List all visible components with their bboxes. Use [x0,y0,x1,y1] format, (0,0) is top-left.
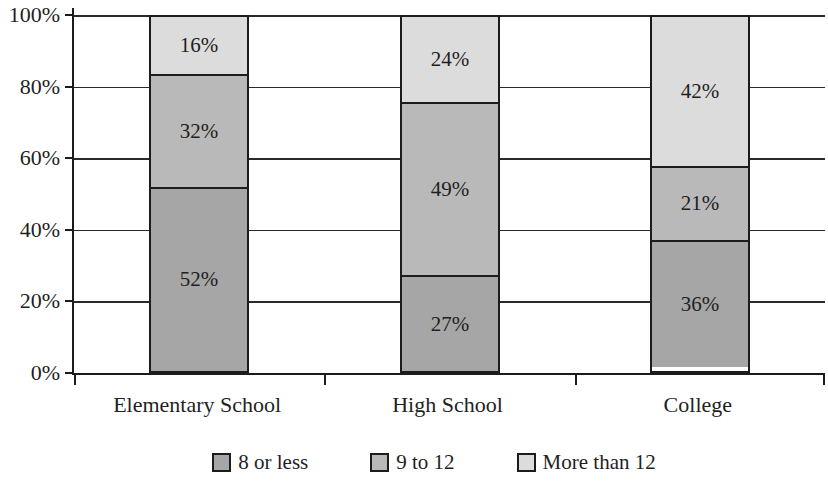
y-axis-tick-label: 20% [2,290,60,312]
bar-segment-label: 24% [431,47,470,72]
y-axis-tick-label: 60% [2,147,60,169]
bar-segment: 27% [402,275,498,371]
legend-swatch-icon [517,453,536,472]
y-axis-tick-label: 80% [2,76,60,98]
legend-item: More than 12 [517,450,656,475]
legend-swatch-icon [370,453,389,472]
bar-elementary-school: 16%32%52% [149,15,249,373]
bar-segment: 16% [151,17,247,74]
bar-college: 42%21%36% [650,15,750,373]
x-axis-category-label: Elementary School [77,392,317,418]
y-axis-tick [65,300,74,302]
bar-segment: 21% [652,166,748,240]
bar-segment-label: 42% [681,79,720,104]
legend-label: More than 12 [543,450,656,475]
x-axis-category-label: College [578,392,818,418]
y-axis-tick [65,372,74,374]
bar-segment-label: 27% [431,312,470,337]
bar-segment: 24% [402,17,498,102]
y-axis-tick [65,157,74,159]
bar-segment: 32% [151,74,247,187]
bar-segment: 36% [652,240,748,367]
legend-label: 8 or less [238,450,308,475]
x-axis-category-label: High School [328,392,568,418]
legend-item: 9 to 12 [370,450,454,475]
y-axis-tick [65,14,74,16]
bar-segment-label: 36% [681,292,720,317]
bar-high-school: 24%49%27% [400,15,500,373]
bar-segment: 49% [402,102,498,275]
x-axis-tick [74,373,76,385]
y-axis-tick-label: 0% [2,362,60,384]
x-axis-tick [324,373,326,385]
y-axis-tick [65,86,74,88]
y-axis-tick [65,229,74,231]
legend-swatch-icon [212,453,231,472]
x-axis-tick [575,373,577,385]
bar-segment: 52% [151,187,247,371]
bar-segment: 42% [652,17,748,166]
bar-segment-label: 32% [180,119,219,144]
legend: 8 or less9 to 12More than 12 [0,450,828,475]
plot-area: 16%32%52%24%49%27%42%21%36% [72,15,825,375]
bar-segment-label: 21% [681,191,720,216]
legend-label: 9 to 12 [396,450,454,475]
bar-segment-label: 16% [180,33,219,58]
bar-segment-label: 49% [431,177,470,202]
bar-segment-label: 52% [180,267,219,292]
legend-item: 8 or less [212,450,308,475]
y-axis-tick-label: 100% [2,4,60,26]
x-axis-tick [823,373,825,385]
y-axis-tick-label: 40% [2,219,60,241]
stacked-bar-chart: 16%32%52%24%49%27%42%21%36% 0%20%40%60%8… [0,0,828,490]
